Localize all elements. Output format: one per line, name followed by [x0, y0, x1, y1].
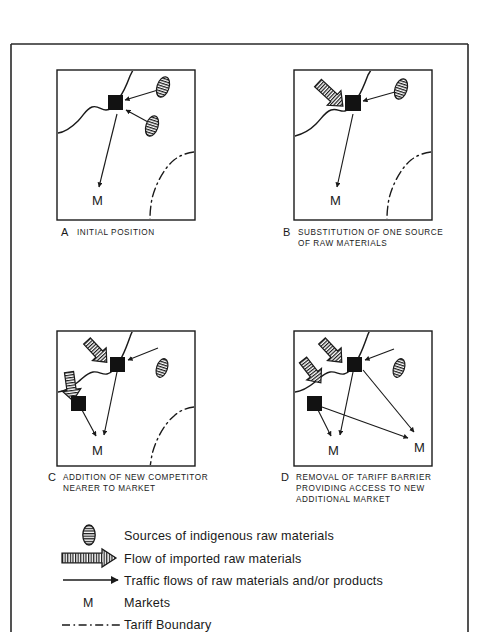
plant-marker [71, 396, 86, 411]
indigenous-source [154, 75, 172, 99]
plant-marker [347, 357, 362, 372]
panel-d-caption-line: REMOVAL OF TARIFF BARRIER [296, 473, 431, 482]
tariff-boundary [387, 152, 431, 220]
market-label: M [330, 193, 341, 208]
panel-c: M [57, 330, 195, 472]
panel-b-caption-line: OF RAW MATERIALS [298, 239, 387, 248]
legend-label: Flow of imported raw materials [124, 552, 301, 566]
striped-oval-icon [83, 525, 95, 545]
panel-a-box [57, 70, 195, 220]
traffic-flow [365, 349, 394, 360]
traffic-flow [99, 114, 117, 187]
legend-row: M Markets [83, 596, 170, 610]
letter-m-icon: M [83, 596, 93, 610]
panel-d: M M [294, 330, 432, 466]
indigenous-source [391, 357, 407, 379]
legend-label: Markets [124, 596, 170, 610]
traffic-flow [340, 372, 353, 435]
panel-a-caption-line: INITIAL POSITION [77, 228, 155, 237]
tariff-boundary [150, 152, 194, 220]
market-label: M [92, 193, 103, 208]
panel-b-caption-line: SUBSTITUTION OF ONE SOURCE [298, 228, 443, 237]
traffic-flow [104, 372, 117, 435]
panel-d-caption-line: ADDITIONAL MARKET [296, 495, 391, 504]
legend-label: Traffic flows of raw materials and/or pr… [124, 574, 383, 588]
panel-b-caption: B SUBSTITUTION OF ONE SOURCE OF RAW MATE… [283, 226, 443, 248]
market-label: M [92, 443, 103, 458]
traffic-flow [128, 348, 158, 360]
legend-row: Sources of indigenous raw materials [83, 525, 334, 545]
import-flow-arrow [315, 335, 349, 369]
traffic-flow [82, 410, 96, 436]
indigenous-source [143, 114, 161, 138]
panel-d-letter: D [281, 471, 289, 483]
traffic-flow [322, 407, 408, 438]
legend: Sources of indigenous raw materials Flow… [62, 525, 383, 632]
panel-a-letter: A [61, 226, 69, 238]
market-label: M [328, 443, 339, 458]
legend-row: Traffic flows of raw materials and/or pr… [63, 574, 383, 588]
plant-marker [307, 396, 322, 411]
panel-a: M [57, 68, 195, 220]
traffic-flow [363, 370, 414, 432]
panel-c-caption: C ADDITION OF NEW COMPETITOR NEARER TO M… [48, 471, 208, 493]
tariff-boundary [150, 407, 194, 472]
traffic-flow [363, 92, 395, 101]
import-flow-arrow [296, 354, 329, 388]
diagram-canvas: M A INITIAL POSITION M B SUBS [0, 0, 489, 632]
panel-b-box [294, 70, 432, 220]
legend-label: Tariff Boundary [124, 618, 212, 632]
plant-marker [345, 95, 361, 111]
plant-marker [108, 95, 123, 110]
traffic-flow [337, 114, 353, 187]
legend-row: Flow of imported raw materials [62, 549, 301, 567]
import-flow-arrow [311, 76, 350, 114]
panel-d-caption-line: PROVIDING ACCESS TO NEW [296, 484, 425, 493]
import-flow-arrow [80, 335, 114, 369]
legend-label: Sources of indigenous raw materials [124, 529, 334, 543]
market-label: M [414, 440, 425, 455]
panel-b-letter: B [283, 226, 291, 238]
panel-a-caption: A INITIAL POSITION [61, 226, 155, 238]
figure-root: M A INITIAL POSITION M B SUBS [0, 0, 489, 632]
panel-c-letter: C [48, 471, 56, 483]
traffic-flow [125, 90, 158, 100]
legend-row: Tariff Boundary [62, 618, 212, 632]
panel-d-caption: D REMOVAL OF TARIFF BARRIER PROVIDING AC… [281, 471, 431, 504]
traffic-flow [126, 110, 148, 122]
indigenous-source [392, 77, 410, 101]
indigenous-source [154, 357, 170, 379]
panel-c-caption-line: NEARER TO MARKET [63, 484, 156, 493]
panel-c-caption-line: ADDITION OF NEW COMPETITOR [63, 473, 208, 482]
panel-b: M [294, 68, 432, 220]
traffic-flow [318, 410, 331, 436]
plant-marker [110, 357, 125, 372]
hatched-block-arrow-icon [62, 549, 116, 567]
outer-frame [11, 44, 468, 632]
